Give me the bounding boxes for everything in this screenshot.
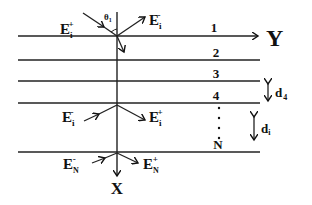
diagram-canvas: Ei+ Ei- θ1 1 2 3 4 N Y d4 di Ei- Ei+ EN-… <box>0 0 312 205</box>
ellipsis-dot <box>218 107 220 109</box>
incident-wave-line <box>104 27 117 36</box>
incident-wave-arrow <box>83 13 104 27</box>
mid-right-field-label: Ei+ <box>149 107 163 128</box>
x-axis-label: X <box>111 179 124 198</box>
ellipsis-dot <box>218 137 220 139</box>
reflected-wave-arrow <box>117 17 145 36</box>
ellipsis-dot <box>218 117 220 119</box>
bottom-left-field-label: EN- <box>63 154 79 175</box>
d4-label: d4 <box>275 85 287 102</box>
di-label: di <box>261 121 271 137</box>
mid-left-arrow <box>84 114 99 121</box>
bottom-left-line <box>105 153 117 158</box>
y-axis-label: Y <box>266 25 283 51</box>
layer-label-2: 2 <box>213 45 220 60</box>
bottom-left-arrow <box>92 158 105 163</box>
transmitted-wave-arrow <box>117 36 124 52</box>
mid-left-field-label: Ei- <box>62 107 75 128</box>
layer-label-1: 1 <box>211 20 218 35</box>
bottom-right-arrow <box>117 153 138 163</box>
ellipsis-dot <box>218 127 220 129</box>
bottom-right-field-label: EN+ <box>143 154 159 175</box>
reflected-field-label: Ei- <box>149 10 162 31</box>
angle-arc <box>111 29 117 32</box>
mid-left-line <box>99 105 117 114</box>
layer-label-3: 3 <box>213 66 220 81</box>
angle-label: θ1 <box>104 12 112 23</box>
multilayer-diagram: Ei+ Ei- θ1 1 2 3 4 N Y d4 di Ei- Ei+ EN-… <box>0 0 312 205</box>
mid-right-arrow <box>117 105 145 120</box>
layer-label-4: 4 <box>213 88 220 103</box>
layer-label-n: N <box>213 137 223 152</box>
incident-field-label: Ei+ <box>60 19 74 40</box>
